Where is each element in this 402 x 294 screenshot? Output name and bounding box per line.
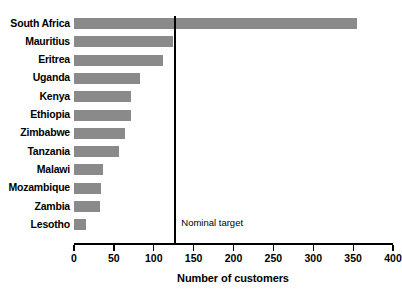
bar — [74, 128, 125, 139]
x-axis-tick-label: 0 — [71, 252, 77, 264]
plot-area: South AfricaMauritiusEritreaUgandaKenyaE… — [0, 0, 402, 294]
category-label: Eritrea — [38, 54, 70, 65]
bar — [74, 219, 86, 230]
x-axis-tick — [153, 245, 154, 251]
x-axis-tick-label: 50 — [108, 252, 120, 264]
x-axis-tick — [313, 245, 314, 251]
bar — [74, 91, 131, 102]
x-axis-title-text: Number of customers — [177, 272, 289, 284]
category-label: Zimbabwe — [20, 127, 70, 138]
category-label: Ethiopia — [30, 109, 70, 120]
category-label: Zambia — [34, 201, 70, 212]
bar — [74, 18, 357, 29]
x-axis-tick-label: 300 — [304, 252, 322, 264]
bar — [74, 55, 163, 66]
x-axis-tick-label: 400 — [384, 252, 402, 264]
x-axis-tick — [113, 245, 114, 251]
bar — [74, 146, 119, 157]
category-label: Mauritius — [25, 36, 70, 47]
category-label: Mozambique — [8, 182, 70, 193]
x-axis-tick-label: 350 — [344, 252, 362, 264]
x-axis-tick-label: 100 — [145, 252, 163, 264]
category-label: Lesotho — [31, 219, 70, 230]
x-axis-tick-label: 250 — [265, 252, 283, 264]
nominal-target-label: Nominal target — [181, 217, 243, 228]
x-axis-tick — [233, 245, 234, 251]
category-label: Kenya — [39, 91, 70, 102]
category-label: Uganda — [33, 72, 70, 83]
x-axis-tick — [353, 245, 354, 251]
bar — [74, 201, 100, 212]
x-axis-title: Number of customers — [0, 272, 402, 284]
bar — [74, 183, 101, 194]
bar — [74, 110, 131, 121]
category-label: Malawi — [37, 164, 70, 175]
x-axis-tick — [273, 245, 274, 251]
x-axis-tick — [73, 245, 74, 251]
x-axis-tick — [392, 245, 393, 251]
x-axis-tick — [193, 245, 194, 251]
bar — [74, 164, 103, 175]
bar — [74, 73, 140, 84]
category-label: South Africa — [10, 18, 70, 29]
category-label: Tanzania — [27, 146, 70, 157]
bar-chart: South AfricaMauritiusEritreaUgandaKenyaE… — [0, 0, 402, 294]
x-axis-tick-label: 200 — [225, 252, 243, 264]
nominal-target-line — [174, 16, 176, 243]
bar — [74, 36, 173, 47]
x-axis-tick-label: 150 — [185, 252, 203, 264]
